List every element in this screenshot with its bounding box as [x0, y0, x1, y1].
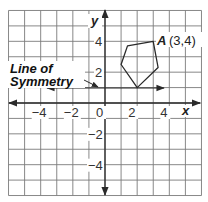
symmetry-label-line2: Symmetry [10, 74, 74, 89]
symmetry-label-pointer [84, 80, 98, 87]
x-tick-label: 4 [160, 105, 167, 120]
coordinate-grid-diagram: Line of Symmetry y x −4−2024 42−2−4 A (3… [0, 0, 208, 202]
y-tick-label: 2 [95, 65, 102, 80]
x-tick-label: −2 [64, 105, 79, 120]
point-a-label: A [156, 33, 166, 48]
y-axis-label: y [90, 13, 99, 28]
pentagon-shape [121, 41, 158, 87]
y-tick-label: 4 [95, 34, 102, 49]
x-tick-labels: −4−2024 [32, 105, 171, 120]
point-a-coordinates: (3,4) [169, 33, 196, 48]
x-tick-label: 0 [96, 105, 103, 120]
x-axis-label: x [181, 103, 190, 118]
x-tick-label: −4 [32, 105, 47, 120]
y-tick-label: −4 [88, 158, 103, 173]
x-tick-label: 2 [128, 105, 135, 120]
y-tick-label: −2 [88, 127, 103, 142]
